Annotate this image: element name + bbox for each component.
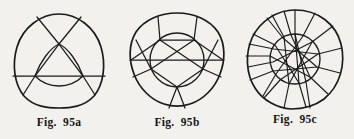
figure-95a-drawing: [0, 4, 118, 112]
inner-outline-95a: [35, 44, 83, 86]
figure-95b: Fig. 95b: [118, 0, 236, 139]
figure-95c: Fig. 95c: [236, 0, 354, 139]
chord-1-95b: [158, 17, 221, 77]
figure-95a: Fig. 95a: [0, 0, 118, 139]
figure-95a-caption: Fig. 95a: [0, 116, 118, 128]
figure-95b-drawing: [118, 4, 236, 112]
chord-4-95b: [169, 40, 218, 108]
figure-plate: Fig. 95a Fig. 95b: [0, 0, 354, 139]
outer-outline-95a: [14, 14, 103, 108]
figure-95b-caption: Fig. 95b: [118, 116, 236, 128]
figure-95c-drawing: [236, 4, 354, 112]
chord-2-95b: [133, 17, 197, 77]
chord-5-95b: [136, 40, 185, 108]
figure-95c-caption: Fig. 95c: [236, 113, 354, 125]
